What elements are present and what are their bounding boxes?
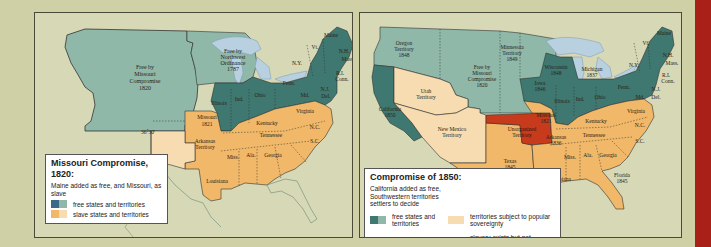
svg-text:Territory: Territory (442, 132, 462, 138)
svg-text:S.C.: S.C. (310, 138, 320, 144)
svg-text:Maine: Maine (657, 30, 672, 36)
svg-text:Virginia: Virginia (296, 108, 314, 114)
svg-text:Mass.: Mass. (666, 60, 680, 66)
legend-title: Compromise of 1850: (370, 172, 555, 183)
legend-item-free: free states and territories (370, 213, 448, 227)
svg-text:Virginia: Virginia (627, 108, 645, 114)
svg-text:Missouri: Missouri (197, 114, 217, 120)
svg-text:Vt.: Vt. (312, 44, 320, 50)
free-swatch (51, 200, 67, 208)
svg-text:Del.: Del. (651, 94, 661, 100)
svg-text:N.Y.: N.Y. (292, 60, 303, 66)
svg-text:N.C.: N.C. (310, 124, 321, 130)
svg-text:1845: 1845 (617, 178, 628, 184)
svg-text:1846: 1846 (535, 86, 546, 92)
svg-text:Illinois: Illinois (554, 98, 570, 104)
compromise-1850-map: Oregon Territory 1848 Minnesota Territor… (359, 12, 682, 238)
legend-label: slave states and territories (73, 211, 149, 218)
legend-label: free states and territories (73, 201, 145, 208)
svg-text:Vt.: Vt. (643, 40, 651, 46)
svg-text:Ala.: Ala. (583, 152, 593, 158)
svg-text:36°30': 36°30' (141, 129, 155, 135)
legend-1820: Missouri Compromise, 1820: Maine added a… (45, 154, 168, 224)
svg-text:Penn.: Penn. (283, 80, 296, 86)
svg-text:1821: 1821 (541, 118, 552, 124)
svg-text:Territory: Territory (195, 144, 215, 150)
svg-text:1821: 1821 (202, 121, 213, 127)
svg-text:Miss.: Miss. (227, 154, 240, 160)
svg-text:Free by: Free by (136, 64, 154, 70)
svg-text:Georgia: Georgia (264, 152, 282, 158)
legend-label: territories subject to popular sovereign… (470, 213, 553, 227)
popular-sovereignty-swatch (448, 216, 464, 224)
legend-item-slave: slave states (370, 234, 448, 239)
svg-text:Md.: Md. (635, 94, 645, 100)
svg-text:Maine: Maine (324, 32, 339, 38)
svg-text:Illinois: Illinois (211, 100, 227, 106)
svg-text:1787: 1787 (227, 66, 239, 72)
svg-text:1836: 1836 (551, 140, 562, 146)
svg-text:1848: 1848 (399, 52, 410, 58)
svg-text:Miss.: Miss. (564, 154, 577, 160)
svg-text:Del.: Del. (321, 93, 331, 99)
svg-text:1820: 1820 (139, 85, 151, 91)
legend-label: free states and territories (392, 213, 448, 227)
svg-text:1837: 1837 (587, 72, 598, 78)
svg-text:Territory: Territory (416, 94, 436, 100)
svg-text:Compromise: Compromise (130, 78, 161, 84)
legend-item-free: free states and territories (51, 200, 162, 208)
svg-text:Ala.: Ala. (246, 152, 256, 158)
svg-text:Tennessee: Tennessee (260, 132, 283, 138)
svg-text:Territory: Territory (512, 132, 532, 138)
svg-text:Ohio: Ohio (595, 94, 606, 100)
legend-subtitle: California added as free, Southwestern t… (370, 185, 450, 208)
svg-text:N.H.: N.H. (663, 52, 674, 58)
svg-text:Conn.: Conn. (335, 76, 349, 82)
legend-label: slavery exists but not subject to standa… (470, 234, 553, 239)
svg-text:Conn.: Conn. (661, 78, 675, 84)
svg-text:Md.: Md. (300, 92, 310, 98)
missouri-compromise-map: Free by Missouri Compromise 1820 Free by… (34, 12, 353, 238)
svg-text:Missouri: Missouri (134, 71, 156, 77)
svg-text:N.J.: N.J. (321, 86, 330, 92)
svg-text:1848: 1848 (551, 70, 562, 76)
svg-text:N.Y.: N.Y. (629, 62, 640, 68)
svg-text:Tennessee: Tennessee (583, 132, 606, 138)
free-swatch (370, 216, 386, 224)
slave-swatch (51, 210, 67, 218)
svg-text:Louisiana: Louisiana (206, 178, 228, 184)
svg-text:1850: 1850 (385, 112, 396, 118)
svg-text:1820: 1820 (477, 82, 488, 88)
legend-subtitle: Maine added as free, and Missouri, as sl… (51, 182, 162, 197)
svg-text:Mass.: Mass. (342, 56, 353, 62)
svg-text:Penn.: Penn. (618, 84, 631, 90)
svg-text:Kentucky: Kentucky (585, 118, 607, 124)
legend-item-popular-sovereignty: territories subject to popular sovereign… (448, 213, 553, 227)
svg-text:Georgia: Georgia (599, 152, 617, 158)
svg-text:Ohio: Ohio (255, 92, 266, 98)
svg-text:N.H.: N.H. (339, 48, 350, 54)
accent-bar (695, 0, 711, 247)
legend-item-slave: slave states and territories (51, 210, 162, 218)
svg-text:N.C.: N.C. (635, 122, 646, 128)
svg-text:Kentucky: Kentucky (256, 120, 278, 126)
legend-1850: Compromise of 1850: California added as … (364, 168, 561, 238)
legend-item-unorganized: slavery exists but not subject to standa… (448, 234, 553, 239)
legend-title: Missouri Compromise, 1820: (51, 158, 162, 180)
svg-text:S.C.: S.C. (635, 138, 645, 144)
svg-text:Ind.: Ind. (235, 96, 244, 102)
svg-text:N.J.: N.J. (652, 86, 661, 92)
svg-text:1849: 1849 (507, 56, 518, 62)
svg-text:Ind.: Ind. (576, 96, 585, 102)
